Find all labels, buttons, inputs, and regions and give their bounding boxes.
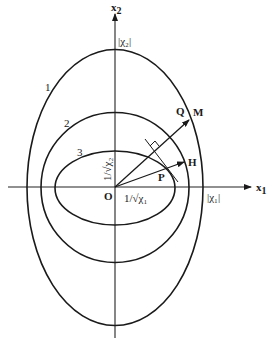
vector-oh (115, 162, 184, 187)
point-label-q: Q (176, 105, 185, 117)
curve-label-2: 2 (64, 117, 70, 129)
point-label-m: M (193, 106, 204, 118)
label-inv-sqrt-chi1: 1/√χ₁ (124, 192, 147, 204)
vector-om (115, 120, 189, 187)
x1-axis-label: x1 (256, 181, 267, 196)
x2-axis-label: x2 (111, 1, 122, 16)
right-angle-marker (150, 141, 159, 146)
label-chi1-outer: |χ₁| (207, 191, 220, 203)
label-chi2-outer: |χ₂| (118, 35, 131, 47)
curve-label-3: 3 (77, 146, 83, 158)
origin-label: O (104, 190, 113, 202)
curve-label-1: 1 (45, 81, 51, 93)
point-label-h: H (188, 156, 197, 168)
label-inv-sqrt-chi2: 1/√χ₂ (101, 158, 113, 181)
ellipse-diagram: x2 x1 |χ₂| |χ₁| 1/√χ₁ 1/√χ₂ O 1 2 3 Q M … (0, 0, 272, 346)
point-label-p: P (158, 171, 165, 183)
